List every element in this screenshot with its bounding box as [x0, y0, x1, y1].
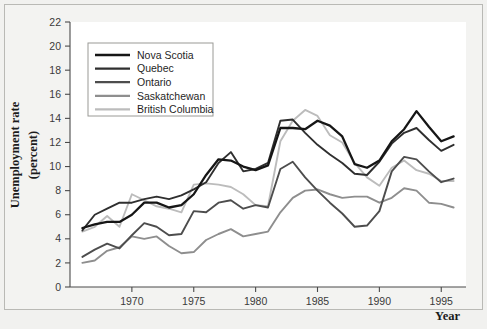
y-tick-label: 6	[55, 208, 61, 220]
x-axis-title: Year	[435, 309, 460, 323]
unemployment-rate-line-chart: 0246810121416182022 19701975198019851990…	[0, 0, 487, 329]
x-tick-label: 1990	[368, 295, 392, 307]
legend-label-saskatchewan: Saskatchewan	[137, 90, 205, 102]
figure-container: 0246810121416182022 19701975198019851990…	[0, 0, 487, 329]
y-tick-label: 16	[49, 88, 61, 100]
plot-wrapper: 0246810121416182022 19701975198019851990…	[0, 0, 487, 329]
legend-label-british-columbia: British Columbia	[137, 103, 214, 115]
y-tick-label: 18	[49, 64, 61, 76]
y-tick-label: 8	[55, 184, 61, 196]
y-tick-label: 12	[49, 136, 61, 148]
y-axis-title-line2: (percent)	[26, 131, 40, 179]
y-tick-label: 20	[49, 40, 61, 52]
y-tick-label: 4	[55, 232, 61, 244]
y-tick-label: 14	[49, 112, 61, 124]
y-tick-label: 22	[49, 16, 61, 28]
x-axis-ticks: 197019751980198519901995	[120, 287, 453, 307]
y-axis-ticks: 0246810121416182022	[49, 16, 70, 293]
legend-label-nova-scotia: Nova Scotia	[137, 49, 194, 61]
x-tick-label: 1975	[182, 295, 206, 307]
x-tick-label: 1980	[244, 295, 268, 307]
x-tick-label: 1995	[430, 295, 454, 307]
x-tick-label: 1985	[306, 295, 330, 307]
chart-legend: Nova ScotiaQuebecOntarioSaskatchewanBrit…	[88, 43, 214, 116]
legend-label-quebec: Quebec	[137, 62, 174, 74]
legend-label-ontario: Ontario	[137, 76, 172, 88]
x-tick-label: 1970	[120, 295, 144, 307]
y-axis-title: Unemployment rate (percent)	[8, 101, 40, 208]
y-axis-title-line1: Unemployment rate	[8, 101, 22, 208]
y-tick-label: 0	[55, 281, 61, 293]
y-tick-label: 2	[55, 257, 61, 269]
y-tick-label: 10	[49, 160, 61, 172]
